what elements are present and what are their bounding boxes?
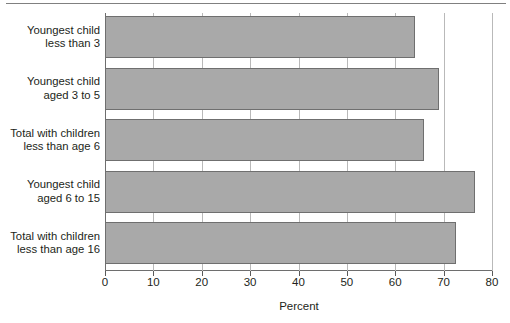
- top-divider-rule: [6, 3, 506, 4]
- axis-tick-label: 40: [279, 276, 319, 288]
- bar: [105, 222, 456, 264]
- category-label: Youngest child aged 3 to 5: [0, 75, 100, 102]
- axis-tick-label: 0: [85, 276, 125, 288]
- category-label: Youngest child less than 3: [0, 24, 100, 51]
- bar: [105, 119, 424, 161]
- gridline: [492, 13, 493, 271]
- category-label: Total with children less than age 6: [0, 127, 100, 154]
- axis-tick-label: 20: [182, 276, 222, 288]
- axis-tick-label: 30: [230, 276, 270, 288]
- category-label: Total with children less than age 16: [0, 230, 100, 257]
- x-axis-tick-labels: 01020304050607080: [105, 276, 495, 292]
- category-label: Youngest child aged 6 to 15: [0, 178, 100, 205]
- axis-tick-label: 60: [375, 276, 415, 288]
- bar: [105, 16, 415, 58]
- x-axis-title: Percent: [105, 300, 493, 312]
- axis-tick-label: 10: [133, 276, 173, 288]
- bar: [105, 171, 475, 213]
- axis-tick-label: 70: [424, 276, 464, 288]
- bar: [105, 68, 439, 110]
- category-axis-labels: Youngest child less than 3Youngest child…: [0, 13, 100, 271]
- axis-tick-label: 80: [472, 276, 510, 288]
- axis-tick-label: 50: [327, 276, 367, 288]
- plot-area: [105, 13, 493, 271]
- bar-chart-figure: Youngest child less than 3Youngest child…: [0, 0, 510, 323]
